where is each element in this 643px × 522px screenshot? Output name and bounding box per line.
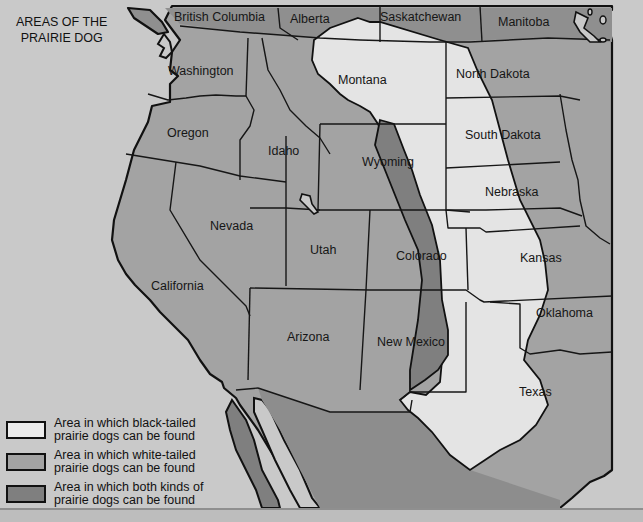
vancouver-island <box>128 8 168 34</box>
label-nebraska: Nebraska <box>485 185 539 199</box>
label-saskatchewan: Saskatchewan <box>380 10 461 24</box>
lake-small-1 <box>588 9 592 15</box>
legend-item-both: Area in which both kinds of prairie dogs… <box>6 478 236 510</box>
legend-label: prairie dogs can be found <box>54 494 203 507</box>
label-alberta: Alberta <box>290 12 330 26</box>
map-title-line-2: PRAIRIE DOG <box>16 30 107 46</box>
label-new-mexico: New Mexico <box>377 335 445 349</box>
label-montana: Montana <box>338 73 387 87</box>
legend-swatch-both <box>6 485 46 503</box>
label-oklahoma: Oklahoma <box>536 306 593 320</box>
page-edge <box>0 508 643 522</box>
lake-small-2 <box>600 16 606 24</box>
lake-small-3 <box>600 38 606 42</box>
label-utah: Utah <box>310 243 336 257</box>
label-north-dakota: North Dakota <box>456 67 530 81</box>
map-title: AREAS OF THE PRAIRIE DOG <box>16 14 107 46</box>
puget-sound <box>158 34 172 58</box>
label-kansas: Kansas <box>520 251 562 265</box>
legend-item-white-tailed: Area in which white-tailed prairie dogs … <box>6 446 236 478</box>
legend-label: prairie dogs can be found <box>54 430 196 443</box>
label-texas: Texas <box>519 385 552 399</box>
label-idaho: Idaho <box>268 144 299 158</box>
legend-swatch-white-tailed <box>6 453 46 471</box>
label-california: California <box>151 279 204 293</box>
legend-item-black-tailed: Area in which black-tailed prairie dogs … <box>6 414 236 446</box>
label-washington: Washington <box>168 64 234 78</box>
legend: Area in which black-tailed prairie dogs … <box>6 414 236 510</box>
legend-label: prairie dogs can be found <box>54 462 196 475</box>
label-colorado: Colorado <box>396 249 447 263</box>
label-arizona: Arizona <box>287 330 329 344</box>
label-manitoba: Manitoba <box>498 15 549 29</box>
label-oregon: Oregon <box>167 126 209 140</box>
label-wyoming: Wyoming <box>362 155 414 169</box>
label-nevada: Nevada <box>210 219 253 233</box>
label-south-dakota: South Dakota <box>465 128 541 142</box>
label-british-columbia: British Columbia <box>174 10 265 24</box>
legend-swatch-black-tailed <box>6 421 46 439</box>
map-title-line-1: AREAS OF THE <box>16 14 107 30</box>
